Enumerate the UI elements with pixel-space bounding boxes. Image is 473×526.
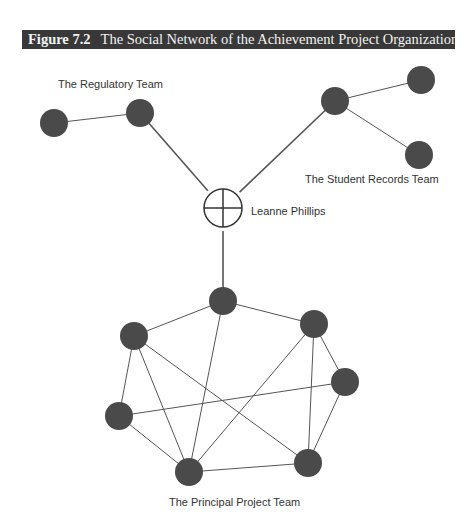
network-edge [189, 463, 308, 472]
nodes-layer [40, 66, 435, 486]
person-node [126, 99, 154, 127]
person-node [294, 449, 322, 477]
person-node [120, 322, 148, 350]
person-node [407, 66, 435, 94]
person-node [331, 368, 359, 396]
person-node [175, 458, 203, 486]
principal-project-team-label: The Principal Project Team [169, 496, 300, 508]
student-records-team-label: The Student Records Team [305, 173, 439, 185]
person-node [40, 109, 68, 137]
regulatory-team-label: The Regulatory Team [58, 78, 163, 90]
person-node [405, 141, 433, 169]
network-edge [134, 301, 223, 336]
network-edge [335, 101, 419, 155]
person-node [300, 310, 328, 338]
network-edge [308, 324, 314, 463]
person-node [321, 87, 349, 115]
network-edge [223, 301, 314, 324]
leanne-phillips-node [204, 189, 242, 227]
network-edge [140, 113, 208, 191]
person-node [105, 402, 133, 430]
person-node [209, 287, 237, 315]
network-edge [189, 301, 223, 472]
leanne-phillips-label: Leanne Phillips [251, 205, 326, 217]
network-edge [189, 324, 314, 472]
